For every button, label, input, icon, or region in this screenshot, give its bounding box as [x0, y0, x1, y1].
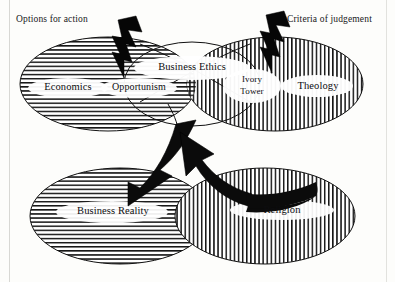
label-halo-ivory-tower — [223, 69, 281, 103]
label-halo-theology — [281, 75, 353, 97]
label-halo-economics — [28, 78, 108, 98]
label-halo-business-reality — [56, 201, 168, 223]
venn-diagram-graphic — [0, 0, 395, 282]
bottom-row-group — [30, 168, 355, 264]
label-halo-opportunism — [101, 78, 177, 98]
diagram-canvas: Options for action Criteria of judgement — [0, 0, 395, 282]
